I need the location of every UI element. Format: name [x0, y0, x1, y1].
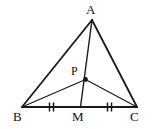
point-label-m: M: [72, 110, 84, 123]
vertex-label-c: C: [130, 110, 139, 123]
geometry-figure: A B C M P: [0, 0, 154, 129]
side-AB: [22, 20, 92, 107]
vertex-label-a: A: [86, 3, 95, 16]
point-label-p: P: [71, 65, 78, 78]
side-AC: [92, 20, 137, 107]
point-P-dot: [83, 77, 88, 82]
vertex-label-b: B: [13, 110, 22, 123]
